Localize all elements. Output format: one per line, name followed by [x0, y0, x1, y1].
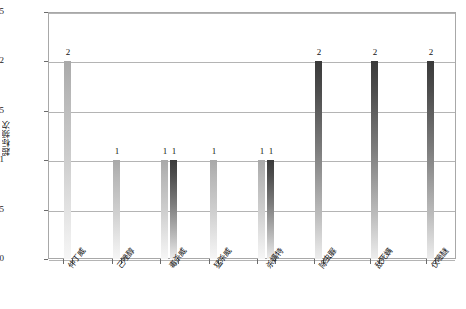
bar: [170, 160, 177, 259]
bar: [371, 61, 378, 259]
x-tick-mark: [160, 259, 161, 264]
x-tick-mark: [314, 259, 315, 264]
bar-value-label: 2: [420, 48, 442, 57]
bar: [267, 160, 274, 259]
bar: [113, 160, 120, 259]
bar-value-label: 2: [57, 48, 79, 57]
x-tick-mark: [257, 259, 258, 264]
bar: [258, 160, 265, 259]
bar-chart: 超标频次 00.511.522.5 2111111222 仲丁威己唑醇毒杀威猛杀…: [0, 0, 466, 309]
bar: [64, 61, 71, 259]
x-tick-mark: [209, 259, 210, 264]
bar: [161, 160, 168, 259]
bar-value-label: 1: [260, 147, 282, 156]
bar-value-label: 1: [106, 147, 128, 156]
x-tick-mark: [426, 259, 427, 264]
bar: [210, 160, 217, 259]
x-tick-mark: [112, 259, 113, 264]
bar-value-label: 1: [163, 147, 185, 156]
x-tick-mark: [370, 259, 371, 264]
bar: [427, 61, 434, 259]
bar-value-label: 2: [364, 48, 386, 57]
bar-value-label: 1: [203, 147, 225, 156]
bar: [315, 61, 322, 259]
bar-value-label: 2: [308, 48, 330, 57]
x-tick-mark: [63, 259, 64, 264]
